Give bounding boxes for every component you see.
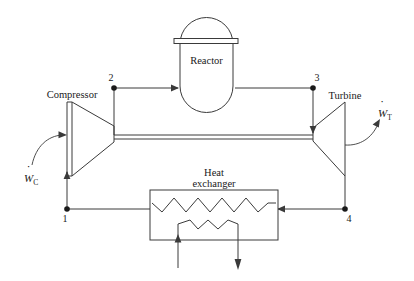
turbine-work-arrow [345,119,380,145]
turbine-work-dot: · [380,95,384,107]
compressor-work-dot: · [27,160,31,172]
state-point-label-1: 1 [63,213,68,224]
compressor-work-subscript: C [33,178,38,187]
heat-exchanger-label-line2: exchanger [192,178,236,189]
drive-shaft [114,135,313,139]
pipe-2-to-reactor [114,85,179,92]
arrow-down-icon [235,259,242,270]
turbine-work-subscript: T [387,113,392,122]
compressor-work-arrow [32,131,67,165]
pipe-4-to-hx [277,206,345,213]
state-point-dot-4 [342,206,348,212]
state-point-label-2: 2 [109,72,114,83]
turbine-trapezoid-icon [313,102,345,176]
state-point-label-4: 4 [347,213,352,224]
diagram-canvas: Reactor Compressor Turbine [0,0,414,281]
compressor-trapezoid-icon [72,102,114,176]
heat-exchanger-icon [150,190,278,240]
compressor-work-label: WC [24,172,38,187]
state-point-dot-3 [310,85,316,91]
arrow-up-right-icon [373,119,380,128]
state-point-label-3: 3 [315,72,320,83]
coolant-outlet-line [235,236,242,270]
state-point-dot-2 [111,85,117,91]
compressor-label: Compressor [47,89,98,100]
arrow-right-icon [171,85,179,92]
reactor-label: Reactor [190,55,223,66]
pipe-1-to-compressor [64,102,72,209]
arrow-right-icon [59,131,68,138]
pipe-3-to-turbine [310,88,317,134]
state-point-dot-1 [64,206,70,212]
brayton-cycle-diagram: Reactor Compressor Turbine [0,0,414,281]
heat-exchanger-label-line1: Heat [204,167,224,178]
turbine-work-label: WT [378,107,392,122]
turbine-label: Turbine [329,90,362,101]
